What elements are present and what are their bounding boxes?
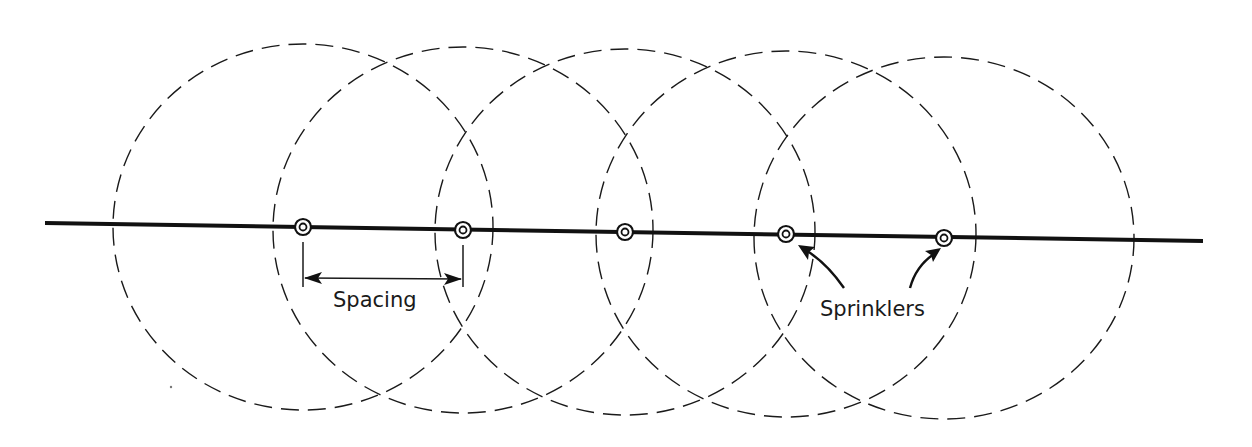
spacing-label: Spacing — [333, 288, 417, 312]
sprinklers-label: Sprinklers — [820, 297, 925, 321]
sprinkler-head-1 — [295, 219, 311, 235]
sprinklers-callout: Sprinklers — [798, 245, 941, 321]
leader-to-sprinkler-5 — [910, 254, 934, 288]
sprinkler-spacing-diagram: Spacing Sprinklers — [0, 0, 1252, 447]
sprinkler-heads — [295, 219, 952, 246]
dimension-line — [305, 278, 461, 279]
leader-to-sprinkler-4 — [804, 249, 844, 288]
sprinkler-head-5 — [936, 230, 952, 246]
sprinkler-head-3 — [617, 224, 633, 240]
leader-arrowhead-4-icon — [798, 245, 815, 260]
speck — [170, 386, 172, 388]
sprinkler-head-2 — [455, 222, 471, 238]
sprinkler-head-4 — [778, 226, 794, 242]
spacing-dimension: Spacing — [303, 242, 463, 312]
